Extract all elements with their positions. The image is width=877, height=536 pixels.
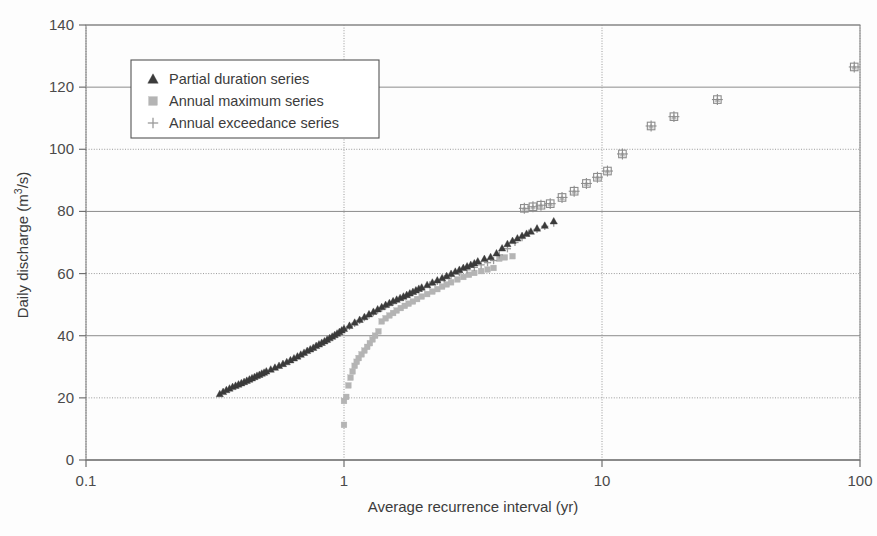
data-point-combined (712, 94, 723, 105)
legend-item-square[interactable]: Annual maximum series (149, 93, 324, 109)
discharge-recurrence-chart: 0.1110100 020406080100120140 Partial dur… (0, 0, 877, 536)
y-axis-title-tail: /s) (14, 172, 31, 189)
data-point-square (510, 253, 516, 259)
data-point-combined (617, 148, 628, 159)
x-axis-tick-label: 0.1 (76, 472, 97, 489)
data-point-combined (602, 166, 613, 177)
legend-label: Annual maximum series (169, 93, 324, 109)
data-point-combined (646, 121, 657, 132)
y-axis-tick-label: 20 (57, 389, 74, 406)
y-axis-tick-label: 80 (57, 202, 74, 219)
data-point-combined (668, 111, 679, 122)
data-point-square (346, 383, 352, 389)
chart-legend[interactable]: Partial duration seriesAnnual maximum se… (131, 60, 379, 138)
data-point-square (350, 369, 356, 375)
data-point-combined (849, 61, 860, 72)
data-point-square (460, 274, 466, 280)
data-point-square (376, 328, 382, 334)
data-point-square (491, 265, 497, 271)
data-point-combined (519, 203, 530, 214)
legend-marker-square (149, 97, 158, 106)
y-axis-tick-label: 0 (66, 451, 74, 468)
data-point-combined (536, 200, 547, 211)
data-point-square (341, 422, 347, 428)
y-axis-title-base: Daily discharge (m (14, 194, 31, 318)
y-axis-tick-label: 60 (57, 265, 74, 282)
legend-label: Annual exceedance series (169, 115, 339, 131)
data-point-combined (569, 186, 580, 197)
data-point-combined (557, 192, 568, 203)
data-point-combined (581, 178, 592, 189)
chart-figure: 0.1110100 020406080100120140 Partial dur… (0, 0, 877, 536)
y-axis-tick-label: 120 (49, 78, 74, 95)
data-point-combined (545, 198, 556, 209)
data-point-square (343, 394, 349, 400)
x-axis-tick-label: 1 (340, 472, 348, 489)
y-axis-tick-label: 40 (57, 327, 74, 344)
data-point-square (424, 291, 430, 297)
data-point-square (448, 279, 454, 285)
data-point-square (485, 267, 491, 273)
data-point-square (419, 294, 425, 300)
legend-item-plus[interactable]: Annual exceedance series (148, 115, 339, 131)
x-axis-tick-label: 100 (847, 472, 872, 489)
data-point-square (478, 268, 484, 274)
data-point-square (454, 277, 460, 283)
legend-label: Partial duration series (169, 71, 309, 87)
legend-item-triangle[interactable]: Partial duration series (148, 71, 309, 87)
y-axis-tick-label: 140 (49, 16, 74, 33)
x-axis-tick-label: 10 (594, 472, 611, 489)
x-axis-title: Average recurrence interval (yr) (368, 498, 579, 515)
data-point-combined (592, 172, 603, 183)
y-axis-tick-label: 100 (49, 140, 74, 157)
data-point-square (348, 375, 354, 381)
